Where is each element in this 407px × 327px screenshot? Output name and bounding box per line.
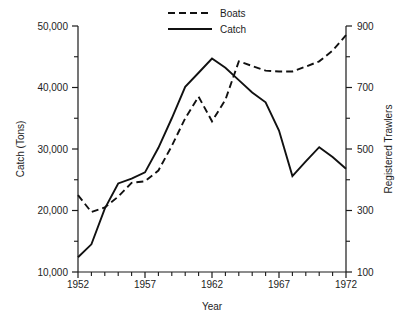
x-tick-label-1952: 1952: [67, 279, 90, 290]
x-tick-label-1967: 1967: [268, 279, 291, 290]
y-tick-label-40000: 40,000: [37, 82, 68, 93]
y-tick-label-30000: 30,000: [37, 144, 68, 155]
x-tick-label-1962: 1962: [201, 279, 224, 290]
legend-label-catch: Catch: [220, 24, 246, 35]
legend-label-boats: Boats: [220, 8, 246, 19]
chart-container: 50,000 40,000 30,000 20,000 10,000 900 7…: [0, 0, 407, 327]
x-tick-label-1957: 1957: [134, 279, 157, 290]
chart-canvas: 50,000 40,000 30,000 20,000 10,000 900 7…: [0, 0, 407, 327]
y2-tick-label-300: 300: [357, 205, 374, 216]
y2-tick-label-100: 100: [357, 267, 374, 278]
y-tick-label-10000: 10,000: [37, 267, 68, 278]
y2-axis-title: Registered Trawlers: [383, 105, 394, 194]
y2-tick-label-900: 900: [357, 21, 374, 32]
x-axis-title: Year: [202, 301, 223, 312]
x-tick-label-1972: 1972: [335, 279, 358, 290]
y2-tick-label-700: 700: [357, 82, 374, 93]
y-tick-label-50000: 50,000: [37, 21, 68, 32]
y-tick-label-20000: 20,000: [37, 205, 68, 216]
y-axis-title: Catch (Tons): [15, 121, 26, 178]
y2-tick-label-500: 500: [357, 144, 374, 155]
